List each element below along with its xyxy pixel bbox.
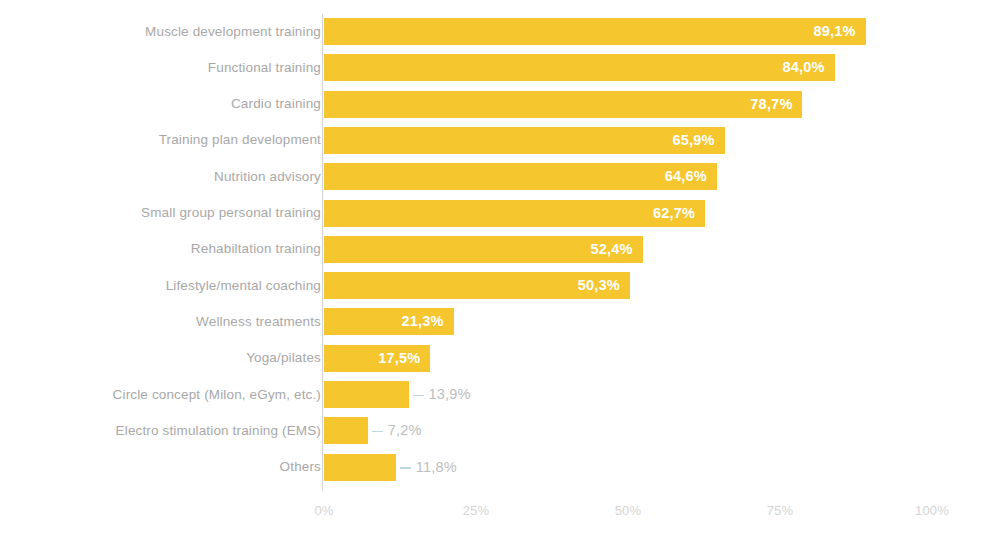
category-label: Cardio training [231,97,321,111]
x-tick-label: 0% [314,503,333,518]
bar [324,454,396,481]
x-tick-label: 50% [615,503,642,518]
bar [324,417,368,444]
bar-chart: Muscle development trainingFunctional tr… [0,0,996,553]
category-label: Yoga/pilates [246,351,321,365]
bar-value-label-inside: 64,6% [655,163,707,190]
bar-value-label-inside: 50,3% [568,272,620,299]
category-label: Training plan development [159,133,321,147]
leader-line [413,395,424,397]
bar-value-label-inside: 89,1% [804,18,856,45]
category-label: Nutrition advisory [214,170,321,184]
x-tick-label: 25% [463,503,490,518]
bar-value-label-inside: 84,0% [773,54,825,81]
bar-value-label-inside: 52,4% [581,236,633,263]
plot-area: Muscle development trainingFunctional tr… [0,0,996,553]
bar-value-label-outside: 11,8% [416,454,457,481]
bar-value-label-inside: 65,9% [663,127,715,154]
bar-value-label-outside: 13,9% [429,381,471,408]
category-label: Circle concept (Milon, eGym, etc.) [113,388,321,402]
bar-value-label-inside: 62,7% [643,200,695,227]
bar [324,18,866,45]
leader-line [372,431,383,433]
category-label: Lifestyle/mental coaching [166,279,321,293]
category-label: Others [280,460,321,474]
bar-value-label-inside: 21,3% [392,308,444,335]
category-label: Rehabiltation training [191,242,321,256]
bar [324,91,802,118]
leader-line [400,467,411,469]
bar-value-label-inside: 78,7% [740,91,792,118]
bar-value-label-outside: 7,2% [388,417,422,444]
category-label: Functional training [208,61,321,75]
bar [324,54,835,81]
category-label: Electro stimulation training (EMS) [116,424,321,438]
category-label: Muscle development training [145,25,321,39]
x-tick-label: 100% [915,503,949,518]
category-label: Wellness treatments [196,315,321,329]
bar [324,381,409,408]
category-label: Small group personal training [141,206,321,220]
x-tick-label: 75% [767,503,794,518]
bar-value-label-inside: 17,5% [368,345,420,372]
